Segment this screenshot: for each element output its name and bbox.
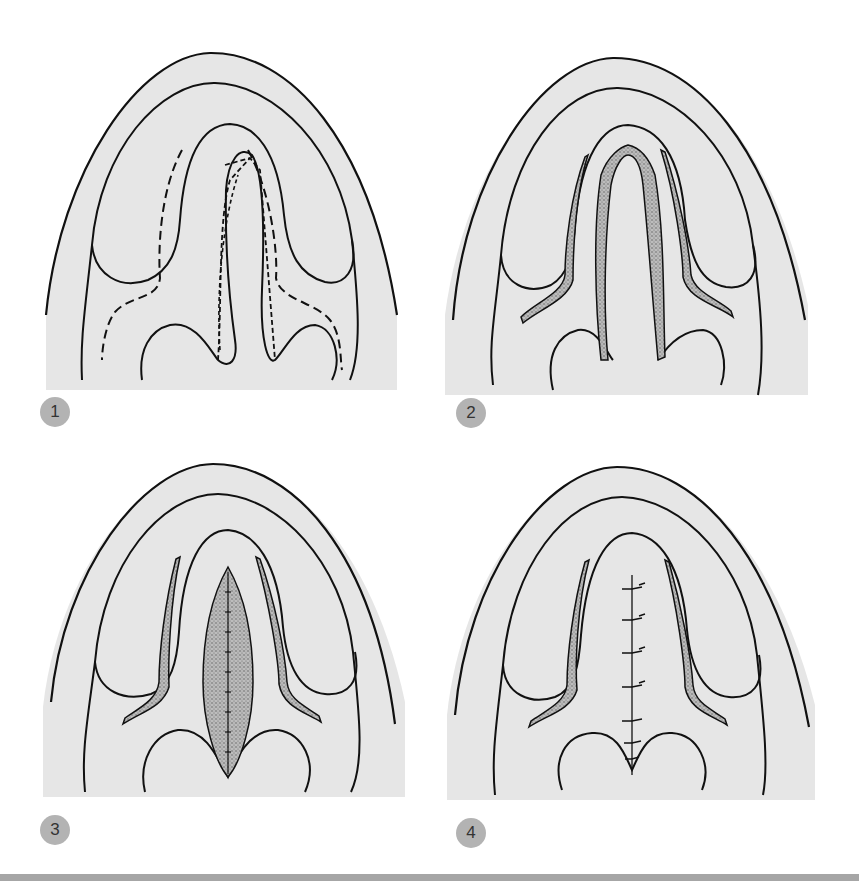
step-badge-2: 2 (456, 398, 486, 428)
palate-diagram-flaps-raised (443, 55, 813, 400)
panel-1 (40, 50, 410, 395)
bottom-divider (0, 874, 859, 881)
palate-diagram-incision-markings (40, 50, 410, 395)
panel-3 (43, 462, 413, 802)
panel-2 (443, 55, 813, 400)
palate-diagram-oral-closure (447, 465, 817, 805)
step-badge-1: 1 (40, 397, 70, 427)
step-badge-3: 3 (40, 815, 70, 845)
panel-4 (447, 465, 817, 805)
palate-diagram-nasal-closure (43, 462, 413, 802)
step-badge-4: 4 (456, 818, 486, 848)
